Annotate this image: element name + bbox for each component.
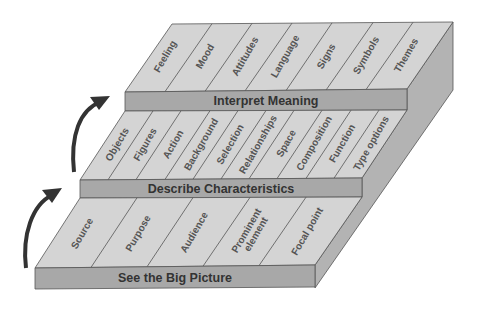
tier-describe-characteristics: Describe Characteristics Objects Figures… [80,110,407,198]
tier-3-label: See the Big Picture [118,271,232,285]
tier-2-label: Describe Characteristics [148,182,295,196]
tier-see-the-big-picture: See the Big Picture Source Purpose Audie… [35,197,362,289]
tier-interpret-meaning: Interpret Meaning Feeling Mood Attitudes… [125,22,453,111]
staircase-diagram: Interpret Meaning Feeling Mood Attitudes… [0,0,478,312]
tier-1-label: Interpret Meaning [214,94,319,108]
